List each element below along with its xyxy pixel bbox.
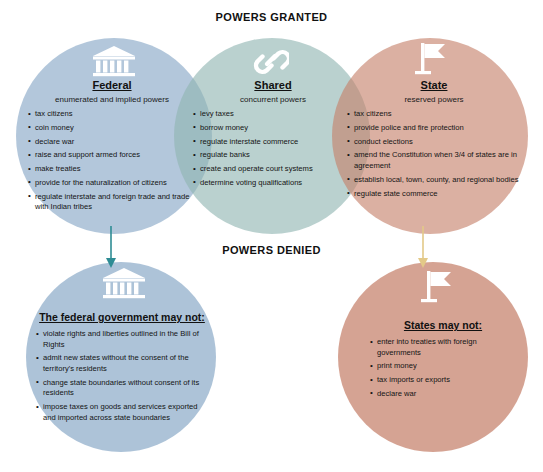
list-item: provide police and fire protection [347, 123, 521, 134]
federal-powers-block: Federal enumerated and implied powers ta… [28, 78, 196, 216]
list-item: levy taxes [193, 109, 353, 120]
federal-powers-list: tax citizens coin money declare war rais… [28, 109, 196, 213]
shared-powers-list: levy taxes borrow money regulate interst… [193, 109, 353, 189]
list-item: impose taxes on goods and services expor… [36, 402, 208, 423]
state-powers-block: State reserved powers tax citizens provi… [347, 78, 521, 202]
list-item: tax citizens [28, 109, 196, 120]
list-item: declare war [28, 137, 196, 148]
list-item: determine voting qualifications [193, 178, 353, 189]
list-item: regulate interstate commerce [193, 137, 353, 148]
state-subtitle: reserved powers [347, 94, 521, 105]
list-item: violate rights and liberties outlined in… [36, 329, 208, 350]
list-item: enter into treaties with foreign governm… [370, 337, 516, 358]
list-item: establish local, town, county, and regio… [347, 175, 521, 186]
federal-denied-block: The federal government may not: violate … [36, 310, 208, 427]
state-denied-block: States may not: enter into treaties with… [370, 318, 516, 403]
list-item: regulate banks [193, 150, 353, 161]
list-item: coin money [28, 123, 196, 134]
list-item: conduct elections [347, 137, 521, 148]
federal-denied-list: violate rights and liberties outlined in… [36, 329, 208, 423]
list-item: make treaties [28, 164, 196, 175]
connector-arrow-state [416, 226, 430, 274]
chain-link-icon [253, 46, 289, 82]
state-denied-list: enter into treaties with foreign governm… [370, 337, 516, 400]
list-item: tax imports or exports [370, 375, 516, 386]
list-item: print money [370, 361, 516, 372]
powers-denied-heading: POWERS DENIED [0, 244, 543, 256]
list-item: declare war [370, 389, 516, 400]
infographic-canvas: POWERS GRANTED POWERS DENIED [0, 0, 543, 472]
shared-subtitle: concurrent powers [193, 94, 353, 105]
federal-denied-title: The federal government may not: [36, 310, 208, 324]
list-item: borrow money [193, 123, 353, 134]
connector-arrow-federal [104, 226, 118, 274]
list-item: regulate state commerce [347, 189, 521, 200]
list-item: raise and support armed forces [28, 150, 196, 161]
list-item: amend the Constitution when 3/4 of state… [347, 150, 521, 171]
federal-subtitle: enumerated and implied powers [28, 94, 196, 105]
classical-building-icon [102, 268, 146, 304]
list-item: admit new states without the consent of … [36, 353, 208, 374]
state-denied-title: States may not: [370, 318, 516, 332]
list-item: regulate interstate and foreign trade an… [28, 192, 196, 213]
state-powers-list: tax citizens provide police and fire pro… [347, 109, 521, 199]
list-item: create and operate court systems [193, 164, 353, 175]
flag-icon [418, 268, 456, 310]
powers-granted-heading: POWERS GRANTED [0, 11, 543, 23]
list-item: provide for the naturalization of citize… [28, 178, 196, 189]
flag-icon [412, 40, 450, 82]
shared-powers-block: Shared concurrent powers levy taxes borr… [193, 78, 353, 192]
classical-building-icon [92, 46, 136, 82]
list-item: change state boundaries without consent … [36, 378, 208, 399]
list-item: tax citizens [347, 109, 521, 120]
